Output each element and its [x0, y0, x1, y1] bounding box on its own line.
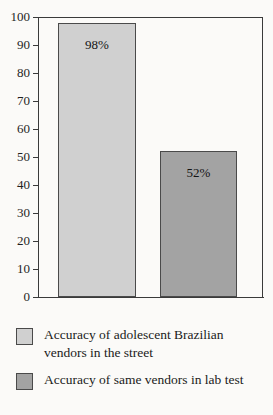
bar-chart-figure: 0102030405060708090100 98%52% Accuracy o… — [0, 0, 273, 415]
y-tick-label: 40 — [17, 176, 30, 193]
bar-street-vendors: 98% — [58, 23, 136, 297]
legend-label: Accuracy of adolescent Brazilian vendors… — [44, 326, 267, 361]
legend-swatch — [16, 328, 33, 345]
y-tick-mark — [33, 297, 38, 298]
legend-swatch — [16, 373, 33, 390]
x-axis-line — [38, 297, 264, 298]
y-tick-label: 10 — [17, 260, 30, 277]
y-tick-label: 100 — [11, 8, 31, 25]
legend-item: Accuracy of adolescent Brazilian vendors… — [0, 326, 273, 361]
y-tick-label: 90 — [17, 36, 30, 53]
bar-lab-test: 52% — [160, 151, 237, 297]
y-tick-label: 30 — [17, 204, 30, 221]
legend-item: Accuracy of same vendors in lab test — [0, 371, 273, 390]
y-tick-label: 70 — [17, 92, 30, 109]
bars-layer: 98%52% — [38, 17, 263, 297]
bar-value-label: 98% — [59, 37, 135, 52]
y-tick-label: 80 — [17, 64, 30, 81]
bar-value-label: 52% — [161, 165, 236, 180]
chart-legend: Accuracy of adolescent Brazilian vendors… — [0, 326, 273, 400]
plot-area: 0102030405060708090100 98%52% — [0, 0, 273, 310]
y-tick-label: 50 — [17, 148, 30, 165]
y-tick-label: 20 — [17, 232, 30, 249]
legend-label: Accuracy of same vendors in lab test — [44, 371, 267, 389]
y-tick-label: 60 — [17, 120, 30, 137]
y-tick-label: 0 — [24, 288, 31, 305]
